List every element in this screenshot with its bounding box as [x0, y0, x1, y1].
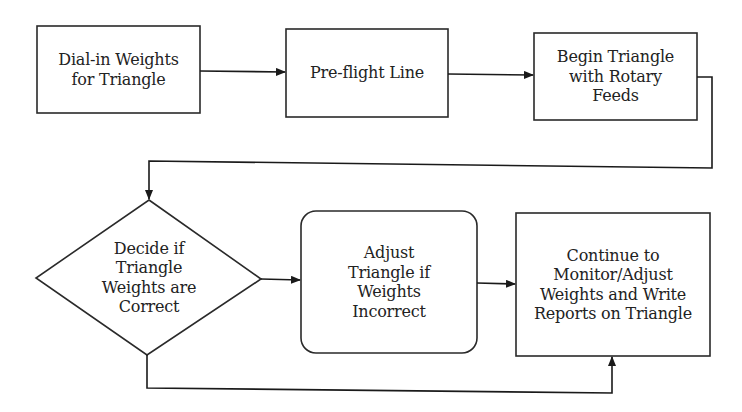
edge-decide-to-adjust — [261, 279, 300, 280]
node-preflight-label: Pre-flight Line — [286, 29, 448, 117]
edge-adjust-to-continue — [477, 283, 515, 284]
edge-dial-in-to-preflight — [200, 71, 285, 72]
node-decide-label: Decide if Triangle Weights are Correct — [60, 200, 238, 355]
edge-preflight-to-begin — [448, 74, 533, 75]
edge-decide-to-continue — [147, 355, 612, 393]
node-adjust-label: Adjust Triangle if Weights Incorrect — [301, 211, 477, 353]
node-continue-label: Continue to Monitor/Adjust Weights and W… — [516, 213, 710, 356]
node-begin-label: Begin Triangle with Rotary Feeds — [534, 33, 697, 120]
node-dial-in-label: Dial-in Weights for Triangle — [37, 26, 200, 113]
flowchart: Dial-in Weights for Triangle Pre-flight … — [0, 0, 742, 412]
